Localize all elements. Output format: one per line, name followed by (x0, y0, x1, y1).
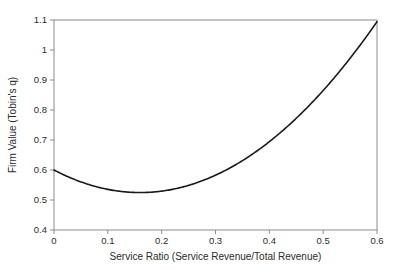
plot-frame (54, 20, 377, 230)
x-tick-label: 0.5 (317, 235, 330, 246)
x-axis-ticks: 00.10.20.30.40.50.6 (51, 230, 383, 246)
y-tick-label: 0.5 (34, 194, 47, 205)
y-axis-ticks: 0.40.50.60.70.80.911.1 (34, 14, 54, 235)
y-tick-label: 0.6 (34, 164, 47, 175)
y-tick-label: 0.8 (34, 104, 47, 115)
y-tick-label: 0.7 (34, 134, 47, 145)
x-tick-label: 0.3 (209, 235, 222, 246)
x-axis-title: Service Ratio (Service Revenue/Total Rev… (110, 251, 322, 262)
x-tick-label: 0.1 (101, 235, 114, 246)
plot-border (54, 20, 377, 230)
chart-canvas: 00.10.20.30.40.50.6 0.40.50.60.70.80.911… (0, 0, 393, 270)
y-tick-label: 1.1 (34, 14, 47, 25)
data-series-group (54, 22, 377, 193)
x-tick-label: 0.4 (263, 235, 276, 246)
y-axis-title: Firm Value (Tobin's q) (7, 77, 18, 173)
y-tick-label: 0.4 (34, 224, 47, 235)
chart-figure: 00.10.20.30.40.50.6 0.40.50.60.70.80.911… (0, 0, 393, 270)
series-line-0 (54, 22, 377, 193)
x-tick-label: 0.6 (370, 235, 383, 246)
x-tick-label: 0.2 (155, 235, 168, 246)
x-tick-label: 0 (51, 235, 56, 246)
y-tick-label: 0.9 (34, 74, 47, 85)
y-tick-label: 1 (42, 44, 47, 55)
